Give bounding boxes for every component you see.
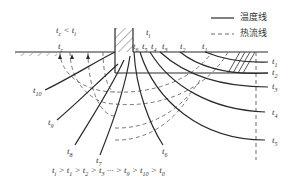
label-top-t3: t3 (162, 42, 168, 53)
legend-solid-label: 温度线 (240, 13, 267, 22)
label-tc: tc (58, 42, 63, 53)
label-top-t1: t1 (202, 42, 208, 53)
floor-lines (115, 52, 268, 160)
label-right-t2: t2 (272, 68, 278, 79)
label-top-t5: t5 (142, 42, 148, 53)
label-right-t5: t5 (272, 136, 278, 147)
label-right-t3: t3 (272, 82, 278, 93)
legend-dashed-label: 热流线 (240, 29, 267, 38)
temperature-lines (45, 52, 268, 155)
legend (211, 18, 234, 34)
label-right-t4: t4 (272, 108, 278, 119)
heat-flow-arrows (58, 54, 90, 59)
label-top-t6: t6 (133, 42, 139, 53)
label-t10: t10 (33, 86, 42, 97)
label-t9: t9 (48, 118, 54, 129)
label-top-t2: t2 (180, 42, 186, 53)
label-top-t4: t4 (151, 42, 157, 53)
label-t8: t8 (67, 147, 73, 158)
wall (115, 28, 133, 73)
label-ti: ti (146, 28, 150, 39)
inequality-caption: ti > t1 > t2 > t3 ··· > t9 > t10 > t0 (52, 166, 165, 177)
label-t6-bottom: t6 (162, 147, 168, 158)
ground-surface (15, 52, 115, 56)
label-tc-lt-ti: tc < ti (56, 26, 76, 37)
